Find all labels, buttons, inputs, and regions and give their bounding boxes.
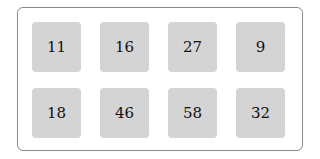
tile-7[interactable]: 58	[168, 88, 217, 138]
tile-3[interactable]: 27	[168, 22, 217, 72]
tile-2[interactable]: 16	[100, 22, 149, 72]
tile-8[interactable]: 32	[236, 88, 285, 138]
tile-5[interactable]: 18	[32, 88, 81, 138]
tile-4[interactable]: 9	[236, 22, 285, 72]
tile-1[interactable]: 11	[32, 22, 81, 72]
tile-6[interactable]: 46	[100, 88, 149, 138]
